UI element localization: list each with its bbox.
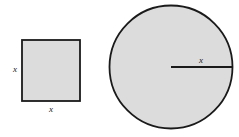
square-shape (22, 40, 80, 101)
geometry-figure: x x x (0, 0, 239, 137)
circle-radius-label: x (198, 55, 203, 65)
square-side-label-bottom: x (48, 104, 53, 114)
figure-canvas: x x x (0, 0, 239, 137)
square-side-label-left: x (12, 64, 17, 74)
